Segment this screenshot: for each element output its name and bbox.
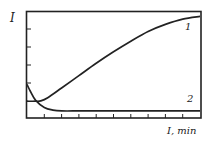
curve-2-label: 2: [186, 93, 193, 104]
x-axis-label: I, min: [166, 125, 196, 136]
curve-2-line: [27, 84, 200, 111]
chart: I I, min 1 2: [0, 0, 211, 144]
curve-1-line: [27, 16, 200, 101]
plot-frame: [27, 12, 202, 119]
curve-1-label: 1: [185, 21, 191, 32]
y-axis-label: I: [9, 11, 15, 25]
y-axis-ticks: [27, 29, 31, 83]
